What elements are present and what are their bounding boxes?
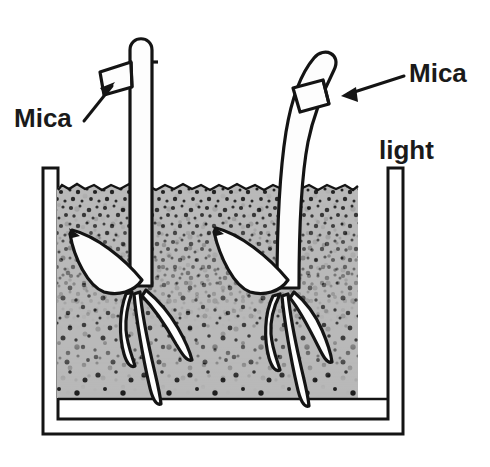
left-mica-fold: [131, 62, 132, 87]
figure-root: Mica Mica light: [0, 0, 490, 467]
light-label: light: [379, 135, 434, 165]
right-arrow-head: [341, 87, 358, 102]
left-coleoptile: [130, 39, 152, 286]
experiment-diagram: Mica Mica light: [0, 0, 490, 467]
left-mica-pointer: [84, 82, 115, 121]
mica-label-left: Mica: [14, 103, 72, 133]
mica-label-right: Mica: [409, 58, 467, 88]
right-mica-pointer: [341, 76, 404, 102]
